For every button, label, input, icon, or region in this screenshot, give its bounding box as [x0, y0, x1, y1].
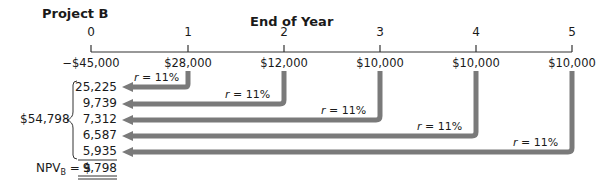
- project-title: Project B: [42, 6, 109, 21]
- npv-value: 9,798: [47, 161, 117, 175]
- cash-flow: $10,000: [356, 56, 404, 70]
- rate-label: r = 11%: [134, 71, 179, 84]
- pv-sum: $54,798: [20, 112, 70, 126]
- rate-label: r = 11%: [417, 120, 462, 133]
- year-label: 1: [184, 25, 192, 39]
- year-label: 2: [280, 25, 288, 39]
- axis-title: End of Year: [250, 14, 333, 29]
- rate-label: r = 11%: [513, 136, 558, 149]
- year-label: 3: [376, 25, 384, 39]
- rate-label: r = 11%: [225, 88, 270, 101]
- cash-flow: $10,000: [548, 56, 596, 70]
- present-value: 25,225: [47, 80, 117, 94]
- cash-flow: $12,000: [260, 56, 308, 70]
- present-value: 5,935: [47, 144, 117, 158]
- year-label: 4: [472, 25, 480, 39]
- present-value: 6,587: [47, 128, 117, 142]
- arrowheads: [122, 82, 133, 157]
- present-value: 9,739: [47, 96, 117, 110]
- axis-ticks: [91, 45, 572, 52]
- year-label: 5: [568, 25, 576, 39]
- cash-flow: −$45,000: [62, 56, 119, 70]
- year-label: 0: [87, 25, 95, 39]
- cash-flow: $28,000: [164, 56, 212, 70]
- rate-label: r = 11%: [321, 104, 366, 117]
- cash-flow: $10,000: [452, 56, 500, 70]
